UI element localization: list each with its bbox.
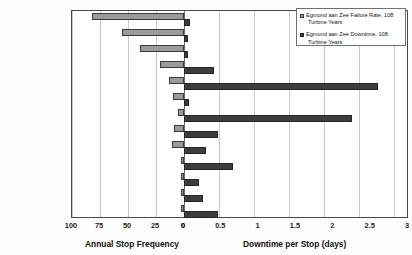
right-tick-1: 1 [243,221,273,230]
bar-downtime [184,51,188,58]
bar-downtime [184,211,218,218]
legend-label-downtime: Egmond aan Zee Downtime, 108 Turbine Yea… [300,31,403,45]
right-tick-0: 0 [168,221,198,230]
legend-entry-failure-rate: Egmond aan Zee Failure Rate, 108 Turbine… [300,12,403,26]
right-tick-3: 3 [392,221,412,230]
chart-figure: Control SystemYaw SystemScheduled Servic… [0,0,412,255]
bar-downtime [184,83,378,90]
bar-failure-rate [173,93,184,100]
left-tick-25: 25 [140,221,170,230]
bar-failure-rate [92,13,184,20]
bar-downtime [184,35,188,42]
bar-failure-rate [140,45,184,52]
left-tick-50: 50 [112,221,142,230]
bar-downtime [184,115,352,122]
legend-label-failure-rate-line1: Egmond aan Zee Failure Rate, 108 [306,12,393,18]
bar-downtime [184,99,189,106]
right-tick-0.5: 0.5 [205,221,235,230]
legend-label-failure-rate: Egmond aan Zee Failure Rate, 108 Turbine… [300,12,403,26]
legend-label-downtime-line2: Turbine Years [306,39,403,46]
bar-downtime [184,19,190,26]
left-axis-title: Annual Stop Frequency [85,239,179,249]
gridline-left-50 [128,11,129,217]
legend-swatch-icon-downtime [300,33,304,37]
legend-label-downtime-line1: Egmond aan Zee Downtime, 108 [306,31,388,37]
left-tick-100: 100 [56,221,86,230]
bar-failure-rate [174,125,184,132]
right-tick-2: 2 [317,221,347,230]
left-tick-75: 75 [84,221,114,230]
bar-downtime [184,131,218,138]
bar-downtime [184,163,233,170]
legend: Egmond aan Zee Failure Rate, 108 Turbine… [296,8,406,46]
legend-swatch-icon-failure-rate [300,14,304,18]
gridline-left-25 [156,11,157,217]
bar-failure-rate [169,77,184,84]
bar-downtime [184,147,206,154]
bar-failure-rate [172,141,184,148]
bar-downtime [184,179,199,186]
right-axis-title: Downtime per Stop (days) [243,239,346,249]
legend-label-failure-rate-line2: Turbine Years [306,19,403,26]
bar-failure-rate [122,29,184,36]
gridline-left-100 [72,11,73,217]
gridline-left-75 [100,11,101,217]
bar-downtime [184,195,203,202]
bar-downtime [184,67,214,74]
right-tick-2.5: 2.5 [355,221,385,230]
bar-failure-rate [160,61,184,68]
right-tick-1.5: 1.5 [280,221,310,230]
legend-entry-downtime: Egmond aan Zee Downtime, 108 Turbine Yea… [300,31,403,45]
